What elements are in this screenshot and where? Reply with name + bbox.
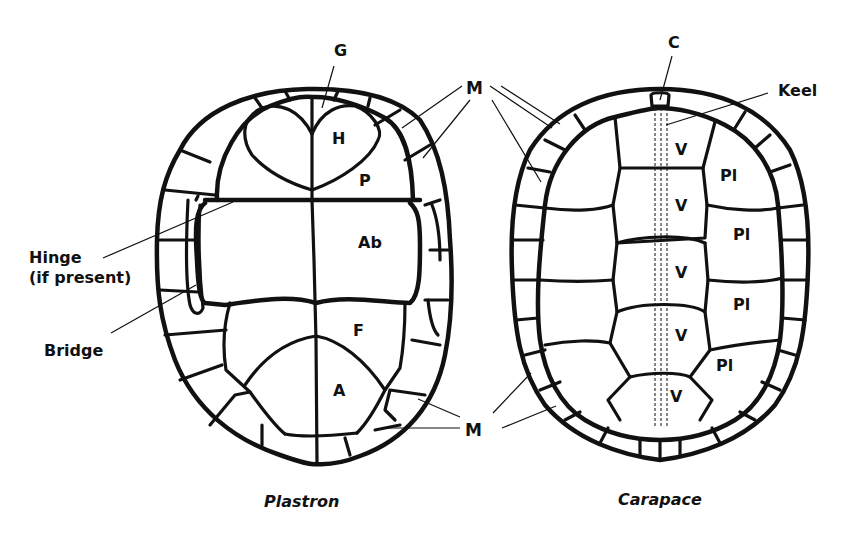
- turtle-shell-diagram: G H P Ab F A M M Hinge (if present) Brid…: [0, 0, 844, 541]
- carapace-drawing: [512, 89, 809, 460]
- plastron-drawing: [157, 89, 452, 464]
- label-pectoral: P: [359, 171, 371, 190]
- label-marginal-bottom: M: [465, 420, 482, 440]
- label-abdominal: Ab: [358, 233, 382, 252]
- label-cervical: C: [668, 33, 680, 52]
- label-gular: G: [334, 41, 347, 60]
- label-vertebral-2: V: [675, 196, 688, 215]
- label-keel: Keel: [778, 81, 817, 100]
- label-pleural-2: Pl: [733, 225, 750, 244]
- label-humeral: H: [332, 129, 345, 148]
- label-marginal-top: M: [466, 78, 483, 98]
- label-anal: A: [333, 381, 346, 400]
- label-vertebral-1: V: [675, 140, 688, 159]
- label-pleural-3: Pl: [733, 295, 750, 314]
- label-vertebral-4: V: [675, 326, 688, 345]
- label-hinge: Hinge: [29, 248, 82, 267]
- label-vertebral-3: V: [675, 263, 688, 282]
- plastron-caption: Plastron: [264, 492, 339, 511]
- label-pleural-4: Pl: [716, 356, 733, 375]
- label-pleural-1: Pl: [720, 166, 737, 185]
- label-hinge-note: (if present): [29, 268, 131, 287]
- carapace-caption: Carapace: [618, 490, 702, 509]
- label-bridge: Bridge: [44, 341, 103, 360]
- label-vertebral-5: V: [670, 387, 683, 406]
- label-femoral: F: [353, 321, 364, 340]
